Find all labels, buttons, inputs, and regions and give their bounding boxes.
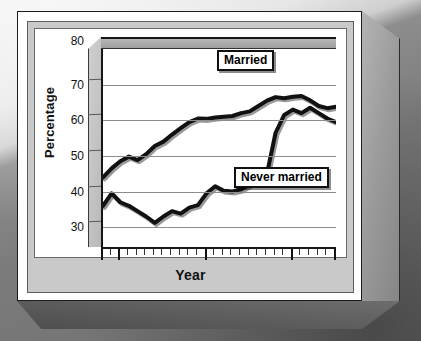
series-line-never-married	[103, 108, 336, 223]
x-tick-1997	[265, 249, 266, 255]
plot-surface	[101, 49, 336, 247]
y-tick-label-70: 70	[71, 78, 84, 92]
y-wall-tick-70	[88, 78, 101, 80]
framed-chart: Percentage 807060504030 1978198019902000…	[17, 11, 402, 331]
y-wall-tick-40	[88, 185, 101, 187]
x-tick-1990	[205, 249, 207, 260]
x-tick-1986	[170, 249, 171, 255]
x-axis-title-strip: Year	[34, 262, 347, 288]
x-tick-1995	[248, 249, 249, 255]
x-tick-1999	[282, 249, 283, 255]
gridline-30	[103, 227, 336, 228]
x-axis-title: Year	[175, 267, 205, 283]
y-tick-label-30: 30	[71, 220, 84, 234]
x-tick-1978	[101, 249, 103, 260]
y-axis-ticks: 807060504030	[44, 33, 88, 243]
gridline-50	[103, 156, 336, 157]
series-line-married	[103, 96, 336, 177]
frame-bevel-bottom	[17, 301, 400, 329]
x-tick-1998	[274, 249, 275, 255]
chart-canvas: Percentage 807060504030 1978198019902000…	[34, 28, 347, 258]
x-tick-2001	[299, 249, 300, 255]
y-tick-label-80: 80	[71, 34, 84, 48]
x-tick-1979	[110, 249, 111, 255]
series-lines	[103, 49, 336, 245]
x-tick-1981	[127, 249, 128, 255]
x-tick-1984	[153, 249, 154, 255]
y-tick-label-60: 60	[71, 113, 84, 127]
x-tick-2003	[317, 249, 318, 255]
gridline-70	[103, 85, 336, 86]
x-tick-1987	[179, 249, 180, 255]
plot-wall-left	[88, 37, 101, 247]
plot-area	[88, 37, 336, 247]
x-tick-1980	[118, 249, 120, 260]
x-tick-2005	[334, 249, 336, 260]
x-tick-2000	[291, 249, 293, 260]
gridline-60	[103, 120, 336, 121]
gridline-40	[103, 192, 336, 193]
series-label-married: Married	[217, 50, 274, 71]
x-tick-1985	[161, 249, 162, 255]
x-tick-1983	[144, 249, 145, 255]
frame-face: Percentage 807060504030 1978198019902000…	[17, 11, 362, 301]
x-tick-1991	[213, 249, 214, 255]
y-tick-label-40: 40	[71, 185, 84, 199]
x-tick-2002	[308, 249, 309, 255]
x-tick-1993	[230, 249, 231, 255]
x-tick-1989	[196, 249, 197, 255]
series-label-never-married: Never married	[234, 167, 329, 188]
x-tick-1992	[222, 249, 223, 255]
frame-bevel-right	[362, 11, 400, 301]
x-tick-2004	[325, 249, 326, 255]
frame-mat: Percentage 807060504030 1978198019902000…	[27, 21, 354, 293]
x-tick-1988	[187, 249, 188, 255]
y-tick-label-50: 50	[71, 149, 84, 163]
x-tick-1982	[136, 249, 137, 255]
x-tick-1996	[256, 249, 257, 255]
line-chart: Percentage 807060504030 1978198019902000…	[44, 33, 342, 217]
x-tick-1994	[239, 249, 240, 255]
plot-wall-top	[101, 37, 336, 49]
